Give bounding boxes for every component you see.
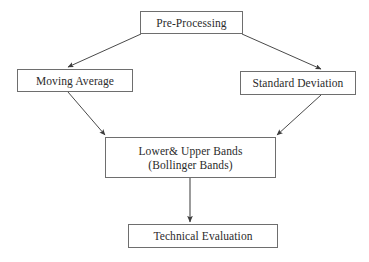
node-technical-evaluation-label-line-1: Technical Evaluation — [153, 229, 252, 243]
edge-moving-average-to-bollinger-bands — [68, 92, 105, 135]
node-moving-average: Moving Average — [17, 69, 133, 92]
node-bollinger-bands-label-line-1: Lower& Upper Bands — [139, 144, 243, 158]
node-bollinger-bands-label-line-2: (Bollinger Bands) — [148, 158, 232, 172]
node-standard-deviation: Standard Deviation — [240, 71, 356, 95]
flow-diagram: Pre-Processing Moving Average Standard D… — [0, 0, 369, 262]
edge-pre-processing-to-moving-average — [68, 34, 141, 67]
node-bollinger-bands: Lower& Upper Bands (Bollinger Bands) — [105, 137, 276, 178]
arrow-layer — [0, 0, 369, 262]
node-standard-deviation-label-line-1: Standard Deviation — [253, 76, 344, 90]
edge-standard-deviation-to-bollinger-bands — [277, 95, 321, 135]
node-technical-evaluation: Technical Evaluation — [128, 224, 278, 248]
edge-pre-processing-to-standard-deviation — [242, 34, 321, 69]
node-pre-processing: Pre-Processing — [140, 11, 243, 34]
node-pre-processing-label-line-1: Pre-Processing — [156, 16, 226, 30]
node-moving-average-label-line-1: Moving Average — [36, 74, 114, 88]
